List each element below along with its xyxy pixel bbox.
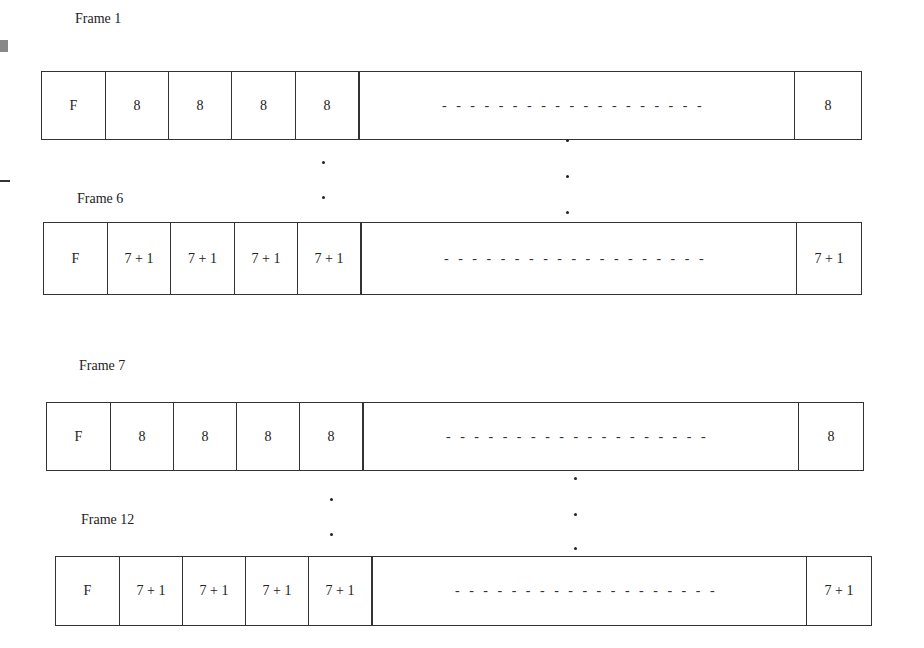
frame-7-cell-4: 8 <box>300 403 364 470</box>
frame-7-cell-2: 8 <box>174 403 237 470</box>
frame-1-cell-f: F <box>42 72 106 139</box>
frame-6-cell-1: 7 + 1 <box>108 223 171 294</box>
frame-12-cell-f: F <box>56 557 120 625</box>
frame-1-row: F 8 8 8 8 - - - - - - - - - - - - - - - … <box>41 71 862 140</box>
frame-7-row: F 8 8 8 8 - - - - - - - - - - - - - - - … <box>46 402 864 471</box>
frame-6-row: F 7 + 1 7 + 1 7 + 1 7 + 1 - - - - - - - … <box>43 222 862 295</box>
ellipsis-dot <box>574 513 577 516</box>
frame-1-cell-2: 8 <box>169 72 232 139</box>
frame-12-label: Frame 12 <box>81 512 134 528</box>
frame-12-row: F 7 + 1 7 + 1 7 + 1 7 + 1 - - - - - - - … <box>55 556 872 626</box>
frame-7-cell-3: 8 <box>237 403 300 470</box>
ellipsis-dot <box>566 211 569 214</box>
ellipsis-dot <box>566 175 569 178</box>
margin-dash-mark <box>0 180 10 182</box>
frame-1-dashes: - - - - - - - - - - - - - - - - - - - <box>442 98 705 114</box>
frame-7-continuation: - - - - - - - - - - - - - - - - - - - <box>364 403 799 470</box>
ellipsis-dot <box>322 196 325 199</box>
frame-12-continuation: - - - - - - - - - - - - - - - - - - - <box>373 557 807 625</box>
frame-7-dashes: - - - - - - - - - - - - - - - - - - - <box>446 429 709 445</box>
frame-6-dashes: - - - - - - - - - - - - - - - - - - - <box>444 251 707 267</box>
frame-6-cell-last: 7 + 1 <box>797 223 861 294</box>
ellipsis-dot <box>330 498 333 501</box>
frame-7-cell-1: 8 <box>111 403 174 470</box>
frame-1-cell-1: 8 <box>106 72 169 139</box>
frame-1-cell-last: 8 <box>795 72 861 139</box>
frame-6-cell-4: 7 + 1 <box>298 223 362 294</box>
frame-6-label: Frame 6 <box>77 191 123 207</box>
frame-12-cell-3: 7 + 1 <box>246 557 309 625</box>
frame-1-cell-4: 8 <box>296 72 360 139</box>
frame-12-cell-last: 7 + 1 <box>807 557 871 625</box>
frame-12-cell-1: 7 + 1 <box>120 557 183 625</box>
frame-12-cell-2: 7 + 1 <box>183 557 246 625</box>
ellipsis-dot <box>322 161 325 164</box>
frame-1-continuation: - - - - - - - - - - - - - - - - - - - <box>360 72 795 139</box>
ellipsis-dot <box>574 477 577 480</box>
frame-7-label: Frame 7 <box>79 358 125 374</box>
ellipsis-dot <box>566 139 569 142</box>
frame-12-dashes: - - - - - - - - - - - - - - - - - - - <box>455 583 718 599</box>
frame-1-cell-3: 8 <box>232 72 296 139</box>
ellipsis-dot <box>574 547 577 550</box>
frame-6-cell-f: F <box>44 223 108 294</box>
frame-7-cell-last: 8 <box>799 403 863 470</box>
frame-1-label: Frame 1 <box>75 11 121 27</box>
frame-6-continuation: - - - - - - - - - - - - - - - - - - - <box>362 223 797 294</box>
frame-6-cell-3: 7 + 1 <box>235 223 298 294</box>
frame-6-cell-2: 7 + 1 <box>171 223 235 294</box>
frame-12-cell-4: 7 + 1 <box>309 557 373 625</box>
margin-scan-mark <box>0 40 8 52</box>
ellipsis-dot <box>330 533 333 536</box>
frame-7-cell-f: F <box>47 403 111 470</box>
